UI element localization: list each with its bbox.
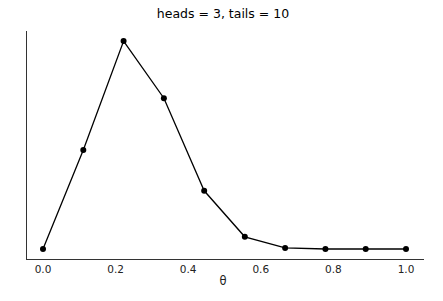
x-tick-label: 0.4 (180, 263, 197, 275)
data-series (40, 38, 409, 252)
chart-title: heads = 3, tails = 10 (157, 6, 289, 21)
data-point (363, 246, 369, 252)
chart: heads = 3, tails = 10 0.00.20.40.60.81.0… (0, 0, 443, 301)
data-point (161, 95, 167, 101)
data-point (40, 246, 46, 252)
series-line (43, 41, 406, 249)
x-tick-label: 1.0 (398, 263, 415, 275)
data-point (201, 188, 207, 194)
data-point (80, 147, 86, 153)
data-point (282, 245, 288, 251)
x-tick-label: 0.6 (252, 263, 269, 275)
x-tick-label: 0.2 (107, 263, 124, 275)
x-tick-label: 0.0 (35, 263, 52, 275)
data-point (242, 234, 248, 240)
x-tick-label: 0.8 (325, 263, 342, 275)
data-point (322, 246, 328, 252)
data-point (121, 38, 127, 44)
x-axis-label: θ (219, 274, 226, 288)
data-point (403, 246, 409, 252)
